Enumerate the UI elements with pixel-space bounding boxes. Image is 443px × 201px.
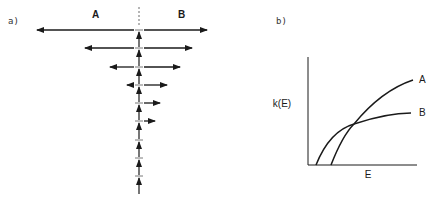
curve-b-label: B — [419, 107, 426, 118]
panel-a: a) A B — [8, 7, 207, 194]
curve-a-label: A — [419, 74, 426, 85]
dotted-axis-top — [138, 7, 139, 24]
panel-b: b) k(E) E A B — [273, 16, 426, 180]
curve-b — [316, 113, 411, 165]
flux-arrows — [37, 30, 207, 121]
curve-a — [331, 80, 413, 165]
panel-b-label: b) — [276, 16, 287, 26]
panel-a-label: a) — [8, 16, 19, 26]
figure: a) A B — [0, 0, 443, 201]
region-a-label: A — [92, 9, 99, 20]
x-axis-label: E — [365, 169, 372, 180]
region-b-label: B — [178, 9, 185, 20]
y-axis-label: k(E) — [273, 98, 291, 109]
